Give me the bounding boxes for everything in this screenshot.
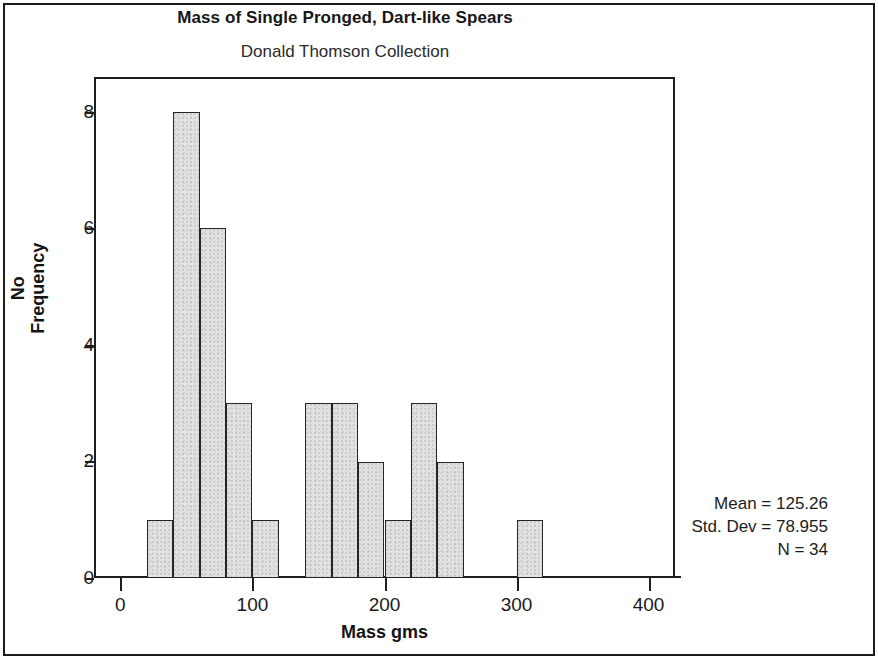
histogram-bar	[200, 228, 226, 578]
plot-area	[94, 77, 675, 578]
x-tick-label: 100	[222, 594, 282, 616]
y-tick-label: 4	[68, 334, 94, 356]
x-tick-mark	[385, 578, 387, 591]
x-tick-label: 400	[619, 594, 679, 616]
y-axis-label-line2: Frequency	[28, 243, 48, 334]
x-tick-label: 0	[90, 594, 150, 616]
histogram-bar	[173, 112, 199, 578]
x-axis-extension	[675, 576, 681, 578]
histogram-bar	[358, 462, 384, 579]
histogram-figure: Mass of Single Pronged, Dart-like Spears…	[0, 0, 878, 659]
chart-subtitle: Donald Thomson Collection	[0, 42, 690, 62]
y-axis-label-line1: No	[8, 276, 28, 300]
histogram-bar	[437, 462, 463, 579]
x-tick-mark	[517, 578, 519, 591]
histogram-bar	[517, 520, 543, 578]
x-tick-mark	[649, 578, 651, 591]
histogram-bar	[332, 403, 358, 578]
y-axis-tick-labels: 02468	[55, 77, 94, 578]
y-tick-label: 0	[68, 567, 94, 589]
histogram-bar	[411, 403, 437, 578]
x-tick-mark	[120, 578, 122, 591]
histogram-bar	[252, 520, 278, 578]
y-tick-label: 6	[68, 217, 94, 239]
histogram-bar	[305, 403, 331, 578]
x-axis-label: Mass gms	[94, 622, 675, 643]
y-tick-label: 8	[68, 101, 94, 123]
stat-mean: Mean = 125.26	[691, 493, 828, 516]
x-tick-mark	[252, 578, 254, 591]
statistics-annotation: Mean = 125.26 Std. Dev = 78.955 N = 34	[691, 493, 828, 562]
stat-std-dev: Std. Dev = 78.955	[691, 516, 828, 539]
y-axis-label: No Frequency	[8, 228, 48, 348]
y-tick-label: 2	[68, 450, 94, 472]
x-axis-ticks: 0100200300400	[94, 578, 675, 628]
histogram-bar	[147, 520, 173, 578]
x-tick-label: 200	[355, 594, 415, 616]
histogram-bar	[226, 403, 252, 578]
stat-n: N = 34	[691, 539, 828, 562]
chart-title: Mass of Single Pronged, Dart-like Spears	[0, 8, 690, 28]
x-tick-label: 300	[487, 594, 547, 616]
histogram-bar	[385, 520, 411, 578]
